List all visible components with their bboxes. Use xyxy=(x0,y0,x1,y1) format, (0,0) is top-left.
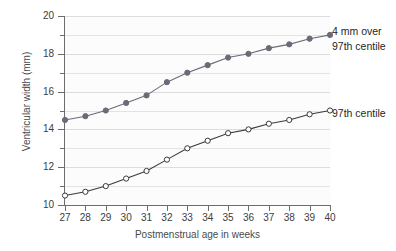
chart-figure: 101214161820 272829303132333435363738394… xyxy=(0,0,396,251)
data-point-0-39 xyxy=(307,36,312,41)
data-point-0-34 xyxy=(205,63,210,68)
series-line-0 xyxy=(65,35,330,120)
y-axis-title: Ventricular width (mm) xyxy=(21,32,32,172)
data-point-0-30 xyxy=(124,100,129,105)
data-series-layer xyxy=(0,0,396,251)
data-point-1-35 xyxy=(225,131,230,136)
data-point-1-29 xyxy=(103,184,108,189)
data-point-0-28 xyxy=(83,114,88,119)
data-point-1-32 xyxy=(164,157,169,162)
data-point-1-39 xyxy=(307,112,312,117)
data-point-0-33 xyxy=(185,70,190,75)
legend-label-upper-line2: 97th centile xyxy=(332,40,386,52)
x-axis-title: Postmenstrual age in weeks xyxy=(65,229,330,240)
data-point-0-27 xyxy=(62,117,67,122)
data-point-1-34 xyxy=(205,138,210,143)
data-point-1-36 xyxy=(246,127,251,132)
series-1 xyxy=(62,108,332,198)
data-point-1-31 xyxy=(144,168,149,173)
data-point-0-32 xyxy=(164,80,169,85)
data-point-0-31 xyxy=(144,93,149,98)
data-point-0-38 xyxy=(287,42,292,47)
data-point-1-28 xyxy=(83,189,88,194)
data-point-1-30 xyxy=(124,176,129,181)
data-point-0-35 xyxy=(225,55,230,60)
data-point-0-36 xyxy=(246,51,251,56)
legend-label-lower-line1: 97th centile xyxy=(332,107,386,119)
data-point-0-29 xyxy=(103,108,108,113)
data-point-1-38 xyxy=(287,117,292,122)
series-0 xyxy=(62,32,332,122)
data-point-1-27 xyxy=(62,193,67,198)
series-line-1 xyxy=(65,111,330,196)
data-point-1-37 xyxy=(266,121,271,126)
legend-label-upper-line1: 4 mm over xyxy=(332,25,382,37)
data-point-1-33 xyxy=(185,146,190,151)
data-point-0-37 xyxy=(266,46,271,51)
